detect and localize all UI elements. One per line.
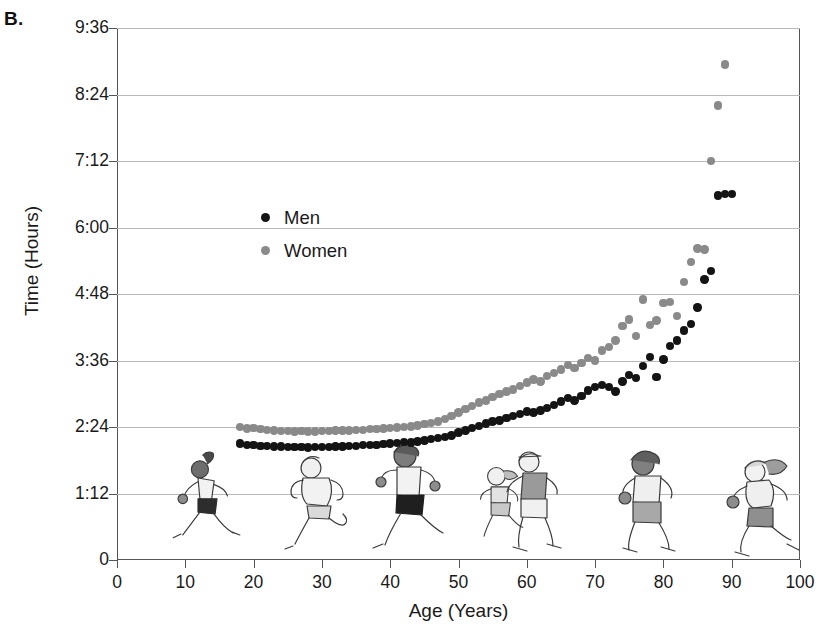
x-tick	[595, 560, 596, 568]
data-point-men	[618, 377, 626, 385]
x-tick-label: 20	[224, 572, 284, 593]
legend-marker-men-icon	[261, 213, 270, 222]
legend: Men Women	[261, 201, 347, 267]
figure-panel: B. Time (Hours) Age (Years) 01:122:243:3…	[0, 0, 819, 639]
y-tick	[109, 427, 117, 428]
y-tick-label: 1:12	[39, 483, 109, 504]
x-tick	[254, 560, 255, 568]
y-tick-label: 7:12	[39, 150, 109, 171]
y-tick-label: 3:36	[39, 350, 109, 371]
y-tick-label: 8:24	[39, 84, 109, 105]
y-tick	[109, 294, 117, 295]
y-tick	[109, 494, 117, 495]
x-tick	[800, 560, 801, 568]
y-tick-label: 0	[39, 549, 109, 570]
x-tick	[117, 560, 118, 568]
x-tick-label: 100	[770, 572, 819, 593]
y-tick	[109, 361, 117, 362]
legend-item-men: Men	[261, 201, 347, 234]
x-tick-label: 10	[155, 572, 215, 593]
data-point-women	[687, 258, 695, 266]
data-point-women	[700, 245, 708, 253]
x-tick	[185, 560, 186, 568]
data-point-men	[611, 387, 619, 395]
gridline	[117, 494, 800, 495]
data-point-women	[680, 278, 688, 286]
data-point-men	[680, 326, 688, 334]
data-point-women	[611, 336, 619, 344]
y-tick-label: 4:48	[39, 283, 109, 304]
legend-label-women: Women	[284, 240, 347, 262]
y-tick	[109, 95, 117, 96]
data-point-men	[673, 336, 681, 344]
x-tick	[663, 560, 664, 568]
y-tick	[109, 228, 117, 229]
x-tick-label: 30	[292, 572, 352, 593]
gridline	[117, 28, 800, 29]
x-tick	[732, 560, 733, 568]
data-point-men	[700, 275, 708, 283]
data-point-women	[639, 295, 647, 303]
x-tick	[459, 560, 460, 568]
data-point-women	[591, 356, 599, 364]
y-axis-title: Time (Hours)	[21, 166, 43, 356]
legend-item-women: Women	[261, 234, 347, 267]
data-point-women	[721, 60, 729, 68]
data-point-men	[659, 355, 667, 363]
x-tick-label: 70	[565, 572, 625, 593]
y-tick	[109, 161, 117, 162]
data-point-women	[714, 101, 722, 109]
data-point-men	[652, 373, 660, 381]
x-tick-label: 0	[87, 572, 147, 593]
y-tick-label: 9:36	[39, 17, 109, 38]
data-point-women	[652, 316, 660, 324]
x-tick	[322, 560, 323, 568]
data-point-men	[693, 303, 701, 311]
data-point-men	[687, 320, 695, 328]
x-tick-label: 40	[360, 572, 420, 593]
x-tick-label: 50	[429, 572, 489, 593]
gridline	[117, 95, 800, 96]
x-tick-label: 80	[633, 572, 693, 593]
legend-label-men: Men	[284, 207, 320, 229]
panel-label: B.	[4, 8, 24, 30]
x-tick-label: 60	[497, 572, 557, 593]
y-tick	[109, 28, 117, 29]
data-point-women	[618, 322, 626, 330]
plot-area: 01:122:243:364:486:007:128:249:36 010203…	[117, 28, 800, 560]
x-tick-label: 90	[702, 572, 762, 593]
gridline	[117, 361, 800, 362]
x-tick	[390, 560, 391, 568]
gridline	[117, 161, 800, 162]
y-tick	[109, 560, 117, 561]
y-tick-label: 2:24	[39, 416, 109, 437]
legend-marker-women-icon	[261, 246, 270, 255]
x-axis-title: Age (Years)	[117, 600, 800, 622]
gridline	[117, 294, 800, 295]
gridline	[117, 228, 800, 229]
y-tick-label: 6:00	[39, 217, 109, 238]
x-tick	[527, 560, 528, 568]
